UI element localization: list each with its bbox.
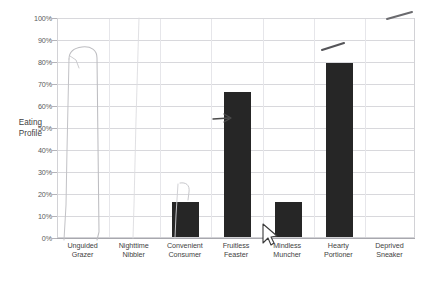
x-axis-line: [57, 238, 415, 239]
bar[interactable]: [326, 63, 353, 237]
plot-area: [57, 18, 415, 238]
x-axis-tick-label-line2: Feaster: [211, 250, 262, 259]
x-axis-tick-label-line2: Nibbler: [108, 250, 159, 259]
bar[interactable]: [172, 202, 199, 237]
x-axis-tick-label: HeartyPortioner: [313, 241, 364, 259]
x-axis-tick-label-line1: Nighttime: [108, 241, 159, 250]
gridline: [58, 18, 414, 19]
x-axis-tick-label: NighttimeNibbler: [108, 241, 159, 259]
x-axis-tick-label-line1: Mindless: [262, 241, 313, 250]
x-axis-tick-label-line2: Muncher: [262, 250, 313, 259]
category-separator: [211, 19, 212, 237]
x-axis-tick-label: ConvenientConsumer: [159, 241, 210, 259]
x-axis-tick-label-line2: Consumer: [159, 250, 210, 259]
bar-chart: Eating Profile 0%10%20%30%40%50%60%70%80…: [0, 0, 430, 303]
y-axis-tick-label: 90%: [6, 36, 52, 45]
category-separator: [365, 19, 366, 237]
y-axis-tick-label: 60%: [6, 102, 52, 111]
gridline: [58, 62, 414, 63]
bar[interactable]: [275, 202, 302, 237]
x-axis-tick-label-line1: Unguided: [57, 241, 108, 250]
x-axis-tick-label: DeprivedSneaker: [364, 241, 415, 259]
y-axis-tick-label: 80%: [6, 58, 52, 67]
y-axis-tick-label: 30%: [6, 168, 52, 177]
y-axis-tick-label: 40%: [6, 146, 52, 155]
x-axis-tick-label: MindlessMuncher: [262, 241, 313, 259]
y-axis-tick-label: 0%: [6, 234, 52, 243]
gridline: [58, 40, 414, 41]
x-axis-tick-label: UnguidedGrazer: [57, 241, 108, 259]
x-axis-tick-label-line1: Hearty: [313, 241, 364, 250]
category-separator: [160, 19, 161, 237]
chart-title: [0, 0, 430, 3]
x-axis-tick-label-line2: Grazer: [57, 250, 108, 259]
category-separator: [314, 19, 315, 237]
y-axis-tick-label: 100%: [6, 14, 52, 23]
category-separator: [109, 19, 110, 237]
x-axis-tick-label-line1: Deprived: [364, 241, 415, 250]
y-axis-tick-label: 10%: [6, 212, 52, 221]
y-axis-tick-label: 20%: [6, 190, 52, 199]
x-axis-tick-label-line1: Fruitless: [211, 241, 262, 250]
x-axis-tick-label: FruitlessFeaster: [211, 241, 262, 259]
x-axis-tick-label-line2: Sneaker: [364, 250, 415, 259]
y-axis: 0%10%20%30%40%50%60%70%80%90%100%: [0, 0, 52, 303]
bar[interactable]: [224, 92, 251, 237]
gridline: [58, 84, 414, 85]
y-axis-tick-label: 70%: [6, 80, 52, 89]
category-separator: [263, 19, 264, 237]
x-axis-tick-label-line2: Portioner: [313, 250, 364, 259]
x-axis-tick-label-line1: Convenient: [159, 241, 210, 250]
y-axis-tick-label: 50%: [6, 124, 52, 133]
